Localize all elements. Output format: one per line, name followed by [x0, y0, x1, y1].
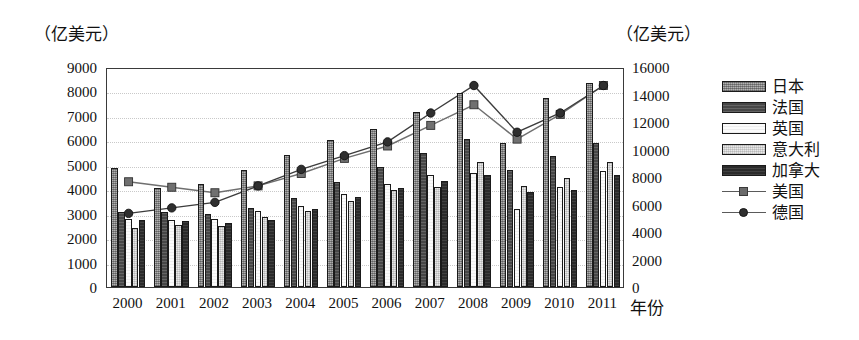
legend-item: 加拿大 — [722, 160, 854, 181]
bar — [312, 209, 318, 287]
bar — [248, 208, 254, 287]
bar — [268, 220, 274, 287]
bar — [514, 209, 520, 287]
bar — [262, 217, 268, 287]
bar — [168, 220, 174, 287]
left-axis-tick: 1000 — [67, 257, 97, 272]
bar — [241, 170, 247, 287]
bar — [327, 140, 333, 287]
line-marker — [125, 178, 133, 186]
bar — [543, 98, 549, 287]
bar — [564, 178, 570, 287]
line-marker — [340, 151, 348, 159]
plot-area — [106, 68, 624, 288]
bar — [427, 175, 433, 287]
left-axis-tick: 7000 — [67, 110, 97, 125]
bar — [550, 156, 556, 287]
legend-line-swatch-icon — [722, 207, 766, 218]
bar — [205, 214, 211, 287]
left-axis-tick: 2000 — [67, 232, 97, 247]
right-axis-tick: 12000 — [632, 116, 670, 131]
bar — [211, 219, 217, 287]
legend-label: 意大利 — [772, 142, 820, 158]
bar — [218, 226, 224, 287]
bar — [125, 219, 131, 287]
bar — [457, 93, 463, 287]
right-axis-tick: 16000 — [632, 61, 670, 76]
line-path — [129, 86, 604, 193]
bar — [182, 221, 188, 287]
bar — [484, 175, 490, 287]
right-axis-tick: 2000 — [632, 254, 662, 269]
legend-swatch-icon — [722, 102, 766, 113]
line-marker — [470, 81, 478, 89]
bar — [139, 220, 145, 287]
legend-item: 日本 — [722, 76, 854, 97]
line-marker — [383, 138, 391, 146]
line-marker — [427, 121, 435, 129]
bar — [348, 201, 354, 287]
bar — [334, 182, 340, 287]
bar — [384, 184, 390, 287]
bar — [255, 211, 261, 287]
bar — [571, 190, 577, 287]
bar — [470, 173, 476, 287]
bar — [305, 211, 311, 287]
bar — [132, 228, 138, 287]
legend-item: 意大利 — [722, 139, 854, 160]
left-axis-tick: 8000 — [67, 85, 97, 100]
bar — [355, 197, 361, 287]
bar — [118, 212, 124, 287]
left-axis-tick: 6000 — [67, 134, 97, 149]
bar — [441, 181, 447, 287]
bar — [500, 143, 506, 287]
line-marker — [427, 109, 435, 117]
line-marker — [254, 182, 262, 190]
bar — [600, 171, 606, 287]
left-axis-unit-label: （亿美元） — [34, 20, 119, 45]
legend-item: 法国 — [722, 97, 854, 118]
bar — [198, 184, 204, 287]
bar — [291, 198, 297, 287]
bar — [434, 187, 440, 287]
bar — [507, 170, 513, 287]
legend-line-swatch-icon — [722, 186, 766, 197]
legend-label: 法国 — [772, 100, 804, 116]
line-marker — [556, 109, 564, 117]
legend-swatch-icon — [722, 123, 766, 134]
right-axis-tick: 6000 — [632, 199, 662, 214]
line-marker — [470, 101, 478, 109]
bar — [175, 225, 181, 287]
right-axis-tick: 8000 — [632, 171, 662, 186]
legend-label: 德国 — [772, 205, 804, 221]
bar — [341, 194, 347, 287]
x-axis-tick: 2011 — [577, 296, 627, 311]
bar — [391, 190, 397, 287]
legend-label: 英国 — [772, 121, 804, 137]
chart-legend: 日本法国英国意大利加拿大美国德国 — [722, 76, 854, 223]
left-axis-tick: 9000 — [67, 61, 97, 76]
bar — [413, 112, 419, 287]
bar — [154, 188, 160, 287]
bar — [370, 129, 376, 287]
left-axis-tick: 3000 — [67, 208, 97, 223]
legend-item: 美国 — [722, 181, 854, 202]
line-marker — [513, 128, 521, 136]
x-axis-title: 年份 — [630, 294, 664, 319]
legend-swatch-icon — [722, 81, 766, 92]
bar — [477, 162, 483, 287]
line-marker — [168, 183, 176, 191]
bar — [298, 206, 304, 287]
right-axis-tick: 10000 — [632, 144, 670, 159]
bar — [521, 186, 527, 287]
left-axis-tick: 4000 — [67, 183, 97, 198]
bar — [398, 188, 404, 287]
bar — [284, 155, 290, 287]
bar — [464, 139, 470, 287]
line-marker — [599, 81, 607, 89]
bar — [593, 143, 599, 287]
bar — [586, 83, 592, 287]
left-axis-tick: 5000 — [67, 159, 97, 174]
line-marker — [168, 204, 176, 212]
bar — [111, 168, 117, 287]
